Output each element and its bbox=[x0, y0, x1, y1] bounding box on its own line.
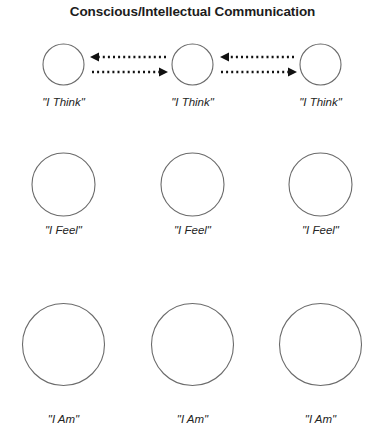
row-being bbox=[23, 304, 362, 386]
node-circle-feel-right[interactable] bbox=[289, 153, 352, 216]
arrow-head-rightward-1 bbox=[159, 68, 168, 77]
node-label-feel-right: "I Feel" bbox=[302, 224, 339, 236]
node-label-am-left: "I Am" bbox=[48, 413, 79, 425]
arrows-middle-right bbox=[220, 53, 297, 77]
node-label-think-right: "I Think" bbox=[299, 96, 342, 108]
arrow-head-rightward-2 bbox=[288, 68, 297, 77]
node-label-think-middle: "I Think" bbox=[171, 96, 214, 108]
arrows-left-middle bbox=[90, 53, 168, 77]
node-circle-think-middle[interactable] bbox=[172, 44, 213, 85]
node-label-think-left: "I Think" bbox=[42, 96, 85, 108]
node-label-am-middle: "I Am" bbox=[177, 413, 208, 425]
node-label-feel-middle: "I Feel" bbox=[174, 224, 211, 236]
arrow-head-leftward-1 bbox=[90, 53, 99, 62]
row-conscious-intellectual bbox=[43, 44, 341, 85]
node-circle-feel-middle[interactable] bbox=[161, 153, 224, 216]
node-circle-think-right[interactable] bbox=[300, 44, 341, 85]
node-circle-think-left[interactable] bbox=[43, 44, 84, 85]
node-circle-am-right[interactable] bbox=[280, 304, 362, 386]
node-label-am-right: "I Am" bbox=[305, 413, 336, 425]
diagram-root: Conscious/Intellectual Communication bbox=[0, 0, 385, 447]
node-circle-am-middle[interactable] bbox=[152, 304, 234, 386]
row-emotional bbox=[32, 153, 352, 216]
node-label-feel-left: "I Feel" bbox=[45, 224, 82, 236]
node-circle-feel-left[interactable] bbox=[32, 153, 95, 216]
arrow-head-leftward-2 bbox=[220, 53, 229, 62]
node-circle-am-left[interactable] bbox=[23, 304, 105, 386]
